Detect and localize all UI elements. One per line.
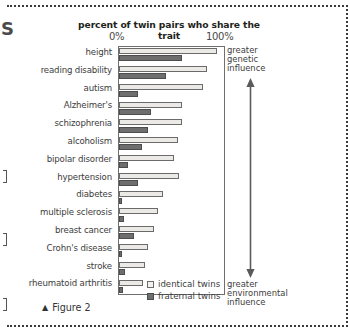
bar-fraternal-twins [119, 162, 128, 168]
bar-row-label: bipolar disorder [0, 154, 112, 164]
bar-identical-twins [119, 155, 174, 161]
bar-identical-twins [119, 173, 179, 179]
bar-row-label: alcoholism [0, 136, 112, 146]
bar-identical-twins [119, 137, 178, 143]
bar-identical-twins [119, 262, 145, 268]
chart-legend: identical twinsfraternal twins [147, 278, 220, 302]
genetic-influence-line: influence [227, 64, 301, 73]
twin-concordance-bar-chart: percent of twin pairs who share the trai… [14, 14, 344, 319]
legend-item: identical twins [147, 278, 220, 290]
bar-row: multiple sclerosis [14, 206, 344, 224]
greater-genetic-influence-note: greatergeneticinfluence [227, 46, 301, 74]
bar-row: diabetes [14, 188, 344, 206]
bar-fraternal-twins [119, 91, 138, 97]
bar-row: schizophrenia [14, 117, 344, 135]
bar-row-label: rheumatoid arthritis [0, 278, 112, 288]
bar-fraternal-twins [119, 55, 182, 61]
bar-row-label: diabetes [0, 189, 112, 199]
bar-identical-twins [119, 102, 182, 108]
bar-fraternal-twins [119, 251, 122, 257]
bar-row: Crohn's disease [14, 242, 344, 260]
legend-filled-square-icon [147, 293, 154, 300]
greater-environmental-influence-note: greaterenvironmentalinfluence [227, 280, 301, 308]
bar-row: autism [14, 82, 344, 100]
bar-row: alcoholism [14, 135, 344, 153]
bar-identical-twins [119, 84, 203, 90]
bar-identical-twins [119, 191, 163, 197]
bar-fraternal-twins [119, 287, 123, 293]
bar-identical-twins [119, 208, 158, 214]
bar-fraternal-twins [119, 269, 125, 275]
legend-item: fraternal twins [147, 290, 220, 302]
legend-item-label: identical twins [158, 279, 220, 289]
figure-caption: ▲ Figure 2 [42, 302, 91, 313]
legend-item-label: fraternal twins [158, 291, 220, 301]
bar-row-label: stroke [0, 261, 112, 271]
bar-identical-twins [119, 280, 143, 286]
bar-row-label: Alzheimer's [0, 100, 112, 110]
bar-fraternal-twins [119, 127, 148, 133]
bar-fraternal-twins [119, 198, 122, 204]
x-axis-tick-100: 100% [206, 31, 233, 42]
bar-row-label: hypertension [0, 172, 112, 182]
bar-row-label: breast cancer [0, 225, 112, 235]
bar-row: bipolar disorder [14, 153, 344, 171]
x-axis-tick-0: 0% [109, 31, 124, 42]
figure-caption-text: Figure 2 [52, 302, 90, 313]
bar-identical-twins [119, 244, 148, 250]
bar-row-label: autism [0, 83, 112, 93]
chart-title: percent of twin pairs who share the trai… [76, 19, 262, 41]
legend-open-square-icon [147, 281, 154, 288]
bar-fraternal-twins [119, 73, 166, 79]
bar-row: breast cancer [14, 224, 344, 242]
double-headed-influence-arrow-icon [246, 78, 255, 278]
bar-row-label: multiple sclerosis [0, 207, 112, 217]
bar-row: hypertension [14, 171, 344, 189]
bar-rows: heightreading disabilityautismAlzheimer'… [14, 46, 344, 295]
bar-row-label: reading disability [0, 65, 112, 75]
page-edge-bracket-artifact [3, 298, 7, 311]
caption-triangle-icon: ▲ [42, 304, 48, 312]
environmental-influence-line: influence [227, 298, 301, 307]
bar-row: stroke [14, 260, 344, 278]
bar-fraternal-twins [119, 180, 138, 186]
bar-row-label: schizophrenia [0, 118, 112, 128]
bar-identical-twins [119, 48, 217, 54]
bar-fraternal-twins [119, 233, 134, 239]
bar-fraternal-twins [119, 144, 142, 150]
bar-fraternal-twins [119, 109, 151, 115]
bar-identical-twins [119, 119, 182, 125]
page-edge-letter-artifact: S [1, 18, 14, 39]
bar-row-label: Crohn's disease [0, 243, 112, 253]
bar-identical-twins [119, 226, 154, 232]
bar-row: Alzheimer's [14, 99, 344, 117]
bar-fraternal-twins [119, 216, 124, 222]
bar-row-label: height [0, 47, 112, 57]
bar-identical-twins [119, 66, 207, 72]
